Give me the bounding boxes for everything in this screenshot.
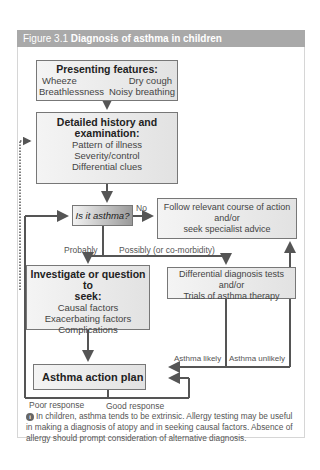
history-item: Pattern of illness: [37, 139, 177, 150]
footnote-text: In children, asthma tends to be extrinsi…: [26, 411, 293, 443]
history-item: Differential clues: [37, 161, 177, 172]
action-plan-label: Asthma action plan: [42, 371, 143, 383]
investigate-heading-1: Investigate or question to: [27, 269, 149, 291]
investigate-heading-2: seek:: [27, 291, 149, 302]
edge-label-good-response: Good response: [106, 401, 164, 411]
edge-label-possibly: Possibly (or co-morbidity): [119, 245, 215, 255]
investigate-item: Complications: [27, 324, 149, 335]
info-icon: i: [26, 413, 34, 421]
differential-line: and/or: [168, 280, 295, 291]
feature-wheeze: Wheeze: [42, 75, 77, 86]
is-it-asthma-decision: Is it asthma?: [72, 205, 133, 226]
feature-dry-cough: Dry cough: [129, 75, 172, 86]
investigate-box: Investigate or question to seek: Causal …: [26, 265, 150, 330]
differential-box: Differential diagnosis tests and/or Tria…: [167, 267, 296, 299]
history-heading-2: examination:: [37, 128, 177, 139]
asthma-action-plan-box: Asthma action plan: [33, 364, 146, 390]
edge-label-poor-response: Poor response: [29, 400, 84, 410]
follow-line: Follow relevant course of action: [158, 202, 296, 213]
follow-course-box: Follow relevant course of action and/or …: [157, 198, 297, 239]
presenting-features-heading: Presenting features:: [37, 64, 177, 75]
edge-label-asthma-likely: Asthma likely: [174, 354, 221, 363]
follow-line: seek specialist advice: [158, 224, 296, 235]
history-box: Detailed history and examination: Patter…: [36, 112, 178, 184]
footnote: iIn children, asthma tends to be extrins…: [26, 411, 298, 444]
feature-breathlessness: Breathlessness: [39, 86, 104, 97]
investigate-item: Exacerbating factors: [27, 313, 149, 324]
investigate-item: Causal factors: [27, 302, 149, 313]
edge-label-probably: Probably: [64, 245, 98, 255]
edge-label-no: No: [136, 203, 147, 213]
presenting-features-box: Presenting features: Wheeze Dry cough Br…: [36, 60, 178, 101]
edge-label-asthma-unlikely: Asthma unlikely: [229, 354, 285, 363]
differential-line: Differential diagnosis tests: [168, 269, 295, 280]
history-item: Severity/control: [37, 150, 177, 161]
feature-noisy-breathing: Noisy breathing: [109, 86, 175, 97]
differential-line: Trials of asthma therapy: [168, 291, 295, 302]
follow-line: and/or: [158, 213, 296, 224]
